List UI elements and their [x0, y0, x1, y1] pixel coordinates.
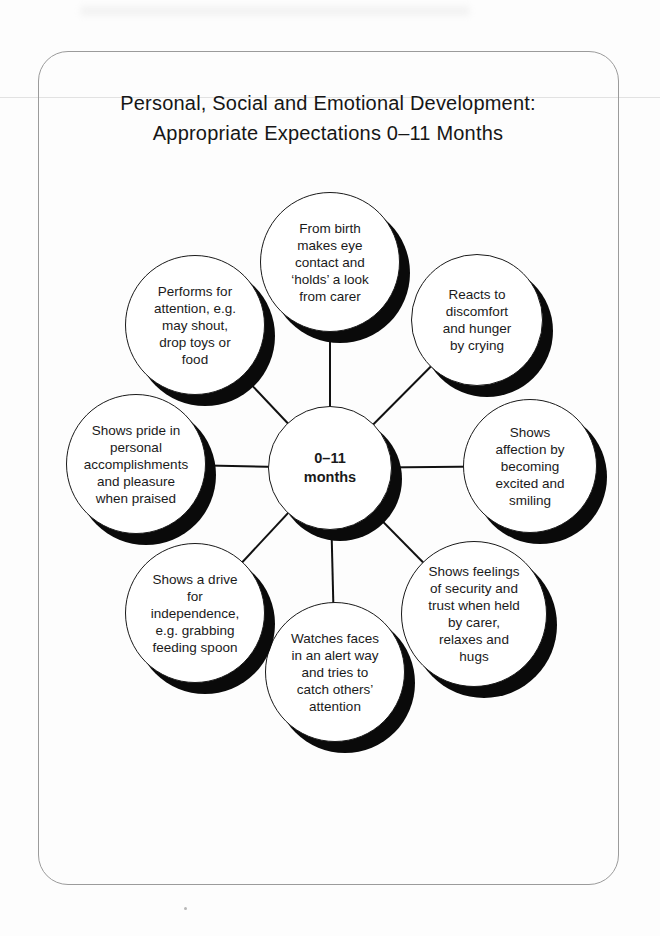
node-bottom-left: Shows a drive for independence, e.g. gra… — [125, 543, 265, 683]
node-top-right-label: Reacts to discomfort and hunger by cryin… — [439, 282, 515, 358]
node-top-left: Performs for attention, e.g. may shout, … — [125, 255, 265, 395]
scanned-page: Personal, Social and Emotional Developme… — [0, 0, 660, 936]
node-center: 0–11 months — [268, 406, 392, 530]
node-bottom: Watches faces in an alert way and tries … — [265, 602, 405, 742]
node-right-label: Shows affection by becoming excited and … — [491, 420, 568, 513]
node-bottom-left-label: Shows a drive for independence, e.g. gra… — [147, 567, 244, 660]
node-left: Shows pride in personal accomplishments … — [66, 394, 206, 534]
node-top-left-label: Performs for attention, e.g. may shout, … — [150, 279, 240, 372]
node-left-label: Shows pride in personal accomplishments … — [80, 418, 192, 511]
node-bottom-right-label: Shows feelings of security and trust whe… — [424, 559, 524, 669]
node-top-right: Reacts to discomfort and hunger by cryin… — [411, 254, 543, 386]
node-bottom-right: Shows feelings of security and trust whe… — [401, 541, 547, 687]
page-title: Personal, Social and Emotional Developme… — [40, 88, 616, 148]
node-center-label: 0–11 months — [300, 445, 360, 491]
node-bottom-label: Watches faces in an alert way and tries … — [287, 626, 383, 719]
node-top-label: From birth makes eye contact and ‘holds’… — [287, 216, 373, 309]
node-top: From birth makes eye contact and ‘holds’… — [260, 192, 400, 332]
node-right: Shows affection by becoming excited and … — [463, 399, 597, 533]
